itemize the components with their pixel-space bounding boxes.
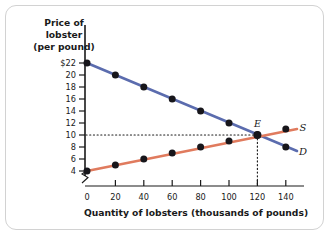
y-tick-label-18: 18 bbox=[66, 82, 76, 92]
demand-point bbox=[112, 72, 119, 79]
x-tick-label-120: 120 bbox=[250, 192, 266, 202]
x-tick-label-40: 40 bbox=[139, 192, 149, 202]
x-tick-label-80: 80 bbox=[195, 192, 205, 202]
supply-point bbox=[226, 138, 233, 145]
equilibrium-label: E bbox=[253, 118, 261, 129]
y-tick-labels-group: $22 20 18 16 14 12 10 8 6 4 bbox=[60, 58, 76, 176]
figure-root: $22 20 18 16 14 12 10 8 6 4 0 20 40 60 8 bbox=[0, 0, 329, 235]
demand-curve-group: D bbox=[84, 60, 308, 158]
x-tick-label-140: 140 bbox=[278, 192, 294, 202]
supply-point bbox=[169, 150, 176, 157]
y-tick-label-16: 16 bbox=[66, 94, 76, 104]
supply-curve-label: S bbox=[300, 122, 307, 133]
y-axis-title-line2: lobster bbox=[46, 29, 83, 40]
y-tick-label-10: 10 bbox=[66, 130, 76, 140]
y-axis-title-line1: Price of bbox=[44, 17, 85, 28]
equilibrium-point bbox=[253, 131, 261, 139]
x-tick-label-60: 60 bbox=[167, 192, 177, 202]
supply-demand-chart: $22 20 18 16 14 12 10 8 6 4 0 20 40 60 8 bbox=[0, 0, 329, 235]
supply-point bbox=[112, 162, 119, 169]
y-tick-label-14: 14 bbox=[66, 106, 76, 116]
y-tick-label-4: 4 bbox=[71, 166, 76, 176]
x-tick-label-0: 0 bbox=[84, 192, 89, 202]
demand-point bbox=[282, 144, 289, 151]
y-tick-label-12: 12 bbox=[66, 118, 76, 128]
demand-point bbox=[197, 108, 204, 115]
demand-point bbox=[84, 60, 91, 67]
demand-curve-label: D bbox=[298, 146, 307, 157]
x-tick-label-20: 20 bbox=[110, 192, 120, 202]
x-ticks-group bbox=[115, 180, 285, 186]
y-ticks-group bbox=[79, 63, 85, 171]
demand-point bbox=[226, 120, 233, 127]
y-tick-label-6: 6 bbox=[71, 154, 76, 164]
supply-point bbox=[140, 156, 147, 163]
demand-point bbox=[169, 96, 176, 103]
y-axis-title-line3: (per pound) bbox=[33, 41, 94, 52]
y-tick-label-20: 20 bbox=[66, 70, 76, 80]
supply-point bbox=[282, 126, 289, 133]
supply-point bbox=[197, 144, 204, 151]
y-tick-label-8: 8 bbox=[71, 142, 76, 152]
x-axis-title: Quantity of lobsters (thousands of pound… bbox=[84, 207, 308, 218]
x-tick-labels-group: 0 20 40 60 80 100 120 140 bbox=[84, 192, 293, 202]
x-tick-label-100: 100 bbox=[221, 192, 237, 202]
y-tick-label-22: $22 bbox=[60, 58, 76, 68]
demand-point bbox=[140, 84, 147, 91]
equilibrium-point-group: E bbox=[253, 118, 261, 139]
supply-curve-group: S bbox=[84, 122, 307, 175]
supply-point bbox=[84, 168, 91, 175]
